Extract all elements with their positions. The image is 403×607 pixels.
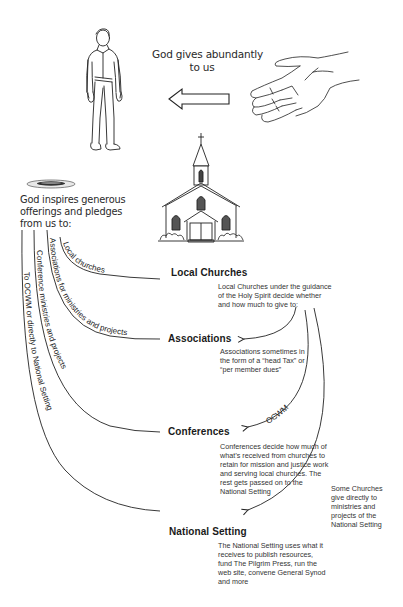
node-heading-associations: Associations <box>168 333 231 344</box>
hand-illustration <box>251 52 359 122</box>
desc-line: and serving local churches. The <box>220 469 328 478</box>
node-heading-national-setting: National Setting <box>169 526 247 537</box>
desc-line: Conferences decide how much of <box>220 442 328 451</box>
left-arrow-icon <box>169 89 229 109</box>
desc-line: web site, convene General Synod <box>218 568 325 577</box>
node-heading-conferences: Conferences <box>168 426 230 437</box>
node-desc-local-churches: Local Churches under the guidance of the… <box>218 282 331 309</box>
desc-line: and more <box>218 577 325 586</box>
flow-curve-labels: Local churches Associations for ministri… <box>22 238 155 478</box>
side-note-line: Some Churches <box>331 484 383 493</box>
flow-label-ocwm: OCWM <box>264 403 290 426</box>
god-gives-line-1: God gives abundantly <box>152 48 252 61</box>
offering-line-2: offerings and pledges <box>20 206 140 218</box>
church-illustration <box>158 133 244 242</box>
person-illustration <box>87 29 122 150</box>
node-heading-local-churches: Local Churches <box>171 267 247 278</box>
offering-plate-illustration <box>27 180 75 188</box>
god-gives-line-2: to us <box>152 61 252 74</box>
desc-line: The National Setting uses what it <box>218 541 325 550</box>
desc-line: the form of a “head Tax” or <box>220 356 305 365</box>
side-note-line: National Setting <box>331 520 383 529</box>
node-desc-conferences: Conferences decide how much of what’s re… <box>220 442 328 496</box>
desc-line: receives to publish resources, <box>218 550 325 559</box>
side-note-line: give directly to <box>331 493 383 502</box>
desc-line: and how much to give to: <box>218 300 331 309</box>
desc-line: Local Churches under the guidance <box>218 282 331 291</box>
offering-line-3: from us to: <box>20 218 140 230</box>
desc-line: “per member dues” <box>220 365 305 374</box>
desc-line: Associations sometimes in <box>220 347 305 356</box>
arrow-to-associations <box>244 307 296 339</box>
offering-line-1: God inspires generous <box>20 194 140 206</box>
node-desc-associations: Associations sometimes in the form of a … <box>220 347 305 374</box>
desc-line: rest gets passed on to the <box>220 478 328 487</box>
desc-line: National Setting <box>220 487 328 496</box>
desc-line: of the Holy Spirit decide whether <box>218 291 331 300</box>
desc-line: what’s received from churches to <box>220 451 328 460</box>
side-note-direct-giving: Some Churches give directly to ministrie… <box>331 484 383 529</box>
flow-label-associations: Associations for ministries and projects <box>48 238 128 338</box>
offering-caption: God inspires generous offerings and pled… <box>20 194 140 230</box>
node-desc-national-setting: The National Setting uses what it receiv… <box>218 541 325 586</box>
side-note-line: ministries and <box>331 502 383 511</box>
side-note-line: projects of the <box>331 511 383 520</box>
god-gives-caption: God gives abundantly to us <box>152 48 252 73</box>
desc-line: fund The Pilgrim Press, run the <box>218 559 325 568</box>
desc-line: retain for mission and justice work <box>220 460 328 469</box>
